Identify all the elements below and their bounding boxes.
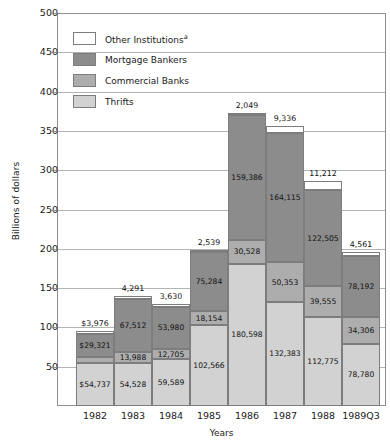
segment-value-label: 30,528 — [228, 248, 266, 256]
bar-group[interactable]: 78,78034,30678,1924,561 — [342, 252, 380, 406]
segment-value-label: 75,284 — [190, 278, 228, 286]
bar-group[interactable]: 112,77539,555122,50511,212 — [304, 181, 342, 406]
segment-value-label: 159,386 — [228, 174, 266, 182]
x-axis-title: Years — [57, 428, 386, 438]
bar-segment[interactable] — [304, 181, 342, 190]
legend-swatch — [73, 74, 96, 87]
bar-top-value-label: 3,630 — [146, 293, 196, 301]
segment-value-label: 180,598 — [228, 331, 266, 339]
segment-value-label: 67,512 — [114, 322, 152, 330]
legend-item-mortgage-bankers[interactable]: Mortgage Bankers — [73, 49, 205, 70]
bar-group[interactable]: $54,737$29,321$3,976 — [76, 331, 114, 406]
legend-item-thrifts[interactable]: Thrifts — [73, 91, 205, 112]
legend: Other InstitutionsaMortgage BankersComme… — [73, 28, 205, 112]
stacked-bar-chart: Billions of dollars 50100150200250300350… — [0, 0, 390, 444]
segment-value-label: 50,353 — [266, 279, 304, 287]
bar-group[interactable]: 59,58912,70553,9803,630 — [152, 304, 190, 406]
legend-swatch — [73, 32, 96, 45]
segment-value-label: 34,306 — [342, 327, 380, 335]
segment-value-label: $54,737 — [76, 381, 114, 389]
legend-swatch — [73, 95, 96, 108]
segment-value-label: 78,192 — [342, 283, 380, 291]
segment-value-label: 39,555 — [304, 298, 342, 306]
segment-value-label: 13,988 — [114, 354, 152, 362]
bar-segment[interactable] — [190, 250, 228, 252]
bar-segment[interactable] — [76, 331, 114, 334]
bar-top-value-label: 9,336 — [260, 115, 310, 123]
bar-segment[interactable] — [342, 252, 380, 256]
x-tick-label: 1989Q3 — [334, 410, 388, 421]
bar-group[interactable]: 102,56618,15475,2842,539 — [190, 250, 228, 406]
bar-top-value-label: 11,212 — [298, 170, 348, 178]
legend-item-commercial-banks[interactable]: Commercial Banks — [73, 70, 205, 91]
bar-group[interactable]: 54,52813,98867,5124,291 — [114, 296, 152, 406]
bar-segment[interactable] — [266, 126, 304, 133]
segment-value-label: 112,775 — [304, 358, 342, 366]
bar-top-value-label: 4,291 — [108, 285, 158, 293]
bar-segment[interactable] — [76, 357, 114, 363]
legend-item-other-institutions[interactable]: Other Institutionsa — [73, 28, 205, 49]
legend-label: Mortgage Bankers — [105, 55, 187, 65]
bar-top-value-label: 2,539 — [184, 239, 234, 247]
segment-value-label: 132,383 — [266, 350, 304, 358]
legend-swatch — [73, 53, 96, 66]
segment-value-label: 18,154 — [190, 315, 228, 323]
legend-label: Thrifts — [105, 97, 134, 107]
bar-segment[interactable] — [152, 304, 190, 307]
segment-value-label: 59,589 — [152, 379, 190, 387]
segment-value-label: 53,980 — [152, 324, 190, 332]
bar-top-value-label: 2,049 — [222, 102, 272, 110]
segment-value-label: 164,115 — [266, 194, 304, 202]
segment-value-label: 54,528 — [114, 381, 152, 389]
segment-value-label: 12,705 — [152, 351, 190, 359]
y-axis-title: Billions of dollars — [11, 141, 21, 261]
bar-top-value-label: 4,561 — [336, 241, 386, 249]
segment-value-label: $29,321 — [76, 342, 114, 350]
legend-footnote-marker: a — [184, 33, 188, 41]
legend-label: Commercial Banks — [105, 76, 189, 86]
bar-group[interactable]: 180,59830,528159,3862,049 — [228, 113, 266, 406]
segment-value-label: 102,566 — [190, 362, 228, 370]
legend-label: Other Institutionsa — [105, 33, 188, 45]
segment-value-label: 78,780 — [342, 371, 380, 379]
bar-group[interactable]: 132,38350,353164,1159,336 — [266, 126, 304, 406]
bar-top-value-label: $3,976 — [70, 320, 120, 328]
